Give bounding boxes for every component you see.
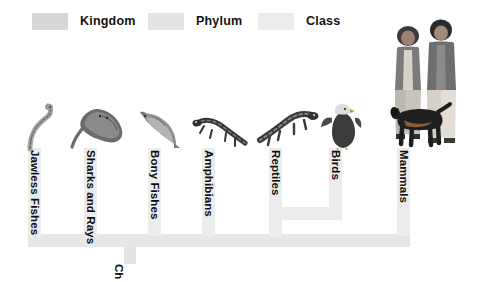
bony-fish-illustration <box>136 110 182 150</box>
taxon-label-jawless-fishes: Jawless Fishes <box>29 150 41 235</box>
salamander-illustration <box>192 112 248 150</box>
taxon-label-birds: Birds <box>330 150 342 180</box>
taxon-label-reptiles: Reptiles <box>270 150 282 196</box>
taxon-label-mammals: Mammals <box>398 150 410 203</box>
stingray-illustration <box>72 106 128 150</box>
eagle-illustration <box>320 100 362 150</box>
lamprey-illustration <box>18 104 58 150</box>
phylum-stem-label: Ch <box>113 264 125 279</box>
taxon-label-amphibians: Amphibians <box>203 150 215 217</box>
humans-and-dog-illustration <box>386 16 464 150</box>
taxon-label-bony-fishes: Bony Fishes <box>149 150 161 219</box>
tree-node-reptiles-birds-descender <box>269 207 282 237</box>
taxon-label-sharks-and-rays: Sharks and Rays <box>85 150 97 244</box>
cladogram-figure: Kingdom Phylum Class Ch <box>0 0 490 282</box>
lizard-illustration <box>256 108 318 150</box>
tree-phylum-stem <box>124 246 136 264</box>
